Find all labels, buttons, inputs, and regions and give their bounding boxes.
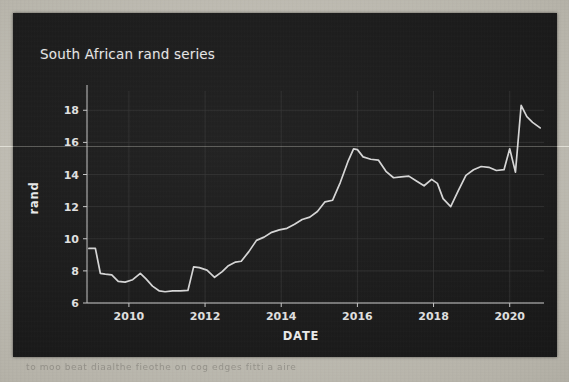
y-axis-label: rand bbox=[27, 181, 41, 214]
x-tick-label: 2020 bbox=[494, 310, 525, 323]
photographed-page: to moo beat diaalthe fieothe on cog edge… bbox=[0, 0, 569, 382]
y-tick-label: 14 bbox=[64, 169, 80, 182]
chart-plot: 681012141618201020122014201620182020 DAT… bbox=[13, 13, 557, 357]
data-line-rand bbox=[89, 105, 540, 291]
x-tick-label: 2012 bbox=[190, 310, 221, 323]
y-tick-label: 8 bbox=[71, 265, 79, 278]
x-tick-label: 2018 bbox=[418, 310, 449, 323]
x-tick-label: 2010 bbox=[114, 310, 145, 323]
y-tick-label: 6 bbox=[71, 297, 79, 310]
page-ruled-line-overlay bbox=[0, 146, 569, 147]
x-tick-label: 2014 bbox=[266, 310, 297, 323]
axes-layer bbox=[83, 85, 544, 307]
y-tick-label: 16 bbox=[64, 136, 80, 149]
tick-label-layer: 681012141618201020122014201620182020 bbox=[64, 104, 526, 323]
y-tick-label: 18 bbox=[64, 104, 79, 117]
x-axis-label: DATE bbox=[283, 329, 319, 343]
x-tick-label: 2016 bbox=[342, 310, 373, 323]
y-tick-label: 10 bbox=[64, 233, 80, 246]
y-tick-label: 12 bbox=[64, 201, 79, 214]
page-bleed-text: to moo beat diaalthe fieothe on cog edge… bbox=[26, 362, 546, 374]
grid-layer bbox=[87, 91, 544, 303]
chart-figure: South African rand series 68101214161820… bbox=[13, 13, 557, 357]
data-series-layer bbox=[89, 105, 540, 291]
